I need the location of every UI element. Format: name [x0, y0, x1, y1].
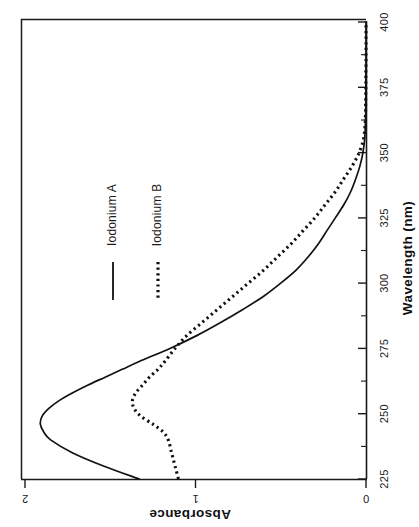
y-ticklabel-2: 2	[22, 493, 28, 505]
legend-label-iodonium-b: Iodonium B	[150, 184, 164, 247]
series-iodonium-a-line	[40, 22, 366, 479]
x-ticklabel-250: 250	[378, 404, 390, 423]
x-ticklabel-400: 400	[378, 12, 390, 31]
absorbance-spectrum-chart: 225 250 275 300 325 350 375 400 Waveleng…	[0, 0, 419, 527]
x-ticklabel-225: 225	[378, 469, 390, 488]
x-ticklabel-275: 275	[378, 339, 390, 358]
figure-container: 225 250 275 300 325 350 375 400 Waveleng…	[0, 0, 419, 527]
legend: Iodonium A Iodonium B	[105, 184, 164, 300]
x-ticklabel-350: 350	[378, 143, 390, 162]
data-traces	[40, 22, 366, 479]
series-iodonium-b-line	[132, 22, 366, 479]
legend-entry-iodonium-a: Iodonium A	[105, 184, 119, 300]
y-ticklabel-0: 0	[363, 493, 369, 505]
y-axis: 0 1 2 Absorbance	[21, 479, 369, 522]
legend-entry-iodonium-b: Iodonium B	[150, 184, 164, 300]
x-ticklabel-375: 375	[378, 78, 390, 97]
y-axis-title: Absorbance	[149, 507, 231, 522]
legend-label-iodonium-a: Iodonium A	[105, 184, 119, 246]
x-ticklabel-300: 300	[378, 273, 390, 292]
x-axis-title: Wavelength (nm)	[400, 201, 415, 315]
y-ticklabel-1: 1	[192, 493, 198, 505]
x-ticklabel-325: 325	[378, 208, 390, 227]
